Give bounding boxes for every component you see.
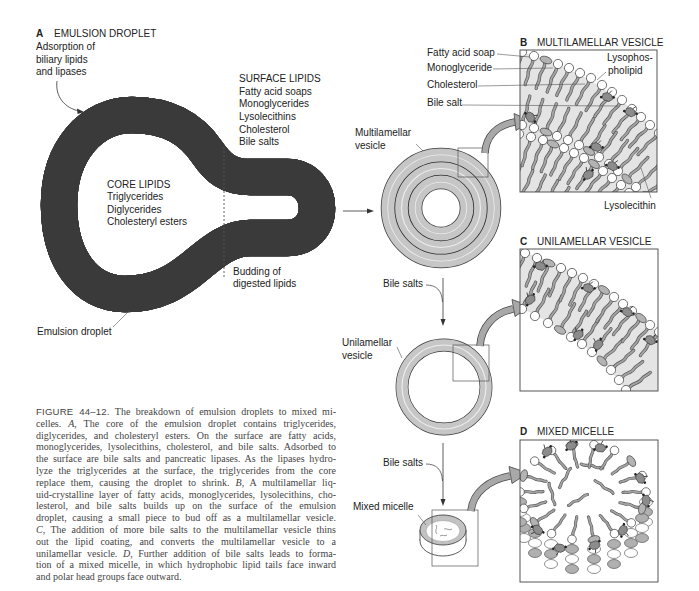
- caption-text: unilamellar vesicle.: [36, 548, 123, 559]
- panel-a-letter: A: [36, 28, 43, 41]
- caption-panel-ref: C: [36, 524, 43, 535]
- caption-text: celles.: [36, 418, 68, 429]
- caption-text: monoglycerides, lysolecithins, cholester…: [36, 441, 336, 452]
- surface-lipid-item: Monoglycerides: [239, 98, 309, 111]
- core-lipids-heading: CORE LIPIDS: [107, 179, 170, 192]
- adsorption-arrow: [57, 81, 84, 114]
- caption-text: , A multilamellar liq-: [242, 477, 336, 488]
- bile-salts-label: Bile salts: [383, 278, 423, 291]
- panel-d-detail: [514, 437, 659, 582]
- budding-note-line: Budding of: [233, 266, 281, 279]
- caption-text: , Further addition of bile salts leads t…: [130, 548, 336, 559]
- panel-b-title: MULTILAMELLAR VESICLE: [537, 37, 664, 50]
- panel-d-letter: D: [520, 426, 527, 439]
- monoglyceride-label: Monoglyceride: [427, 62, 492, 75]
- multilamellar-vesicle-label: vesicle: [355, 140, 386, 153]
- panel-c-letter: C: [520, 236, 527, 249]
- caption-line: lesterol, and bile salts builds up on th…: [36, 500, 336, 512]
- figure-canvas: A EMULSION DROPLET Adsorption of biliary…: [0, 0, 699, 591]
- adsorption-note-line: Adsorption of: [36, 41, 95, 54]
- arrow-to-multilamellar: [343, 209, 374, 214]
- figure-number: FIGURE 44–12.: [36, 406, 110, 417]
- bile-salts-arrow-2: [426, 443, 446, 506]
- multilamellar-leader: [416, 144, 423, 151]
- caption-text: , The core of the emulsion droplet conta…: [74, 418, 336, 429]
- bile-salt-label: Bile salt: [427, 97, 462, 110]
- bile-salts-label: Bile salts: [383, 457, 423, 470]
- adsorption-note-line: biliary lipids: [36, 54, 88, 67]
- bile-salts-arrow-1: [426, 278, 446, 326]
- caption-text: , The addition of more bile salts to the…: [43, 524, 336, 535]
- lysophospholipid-label: pholipid: [608, 65, 642, 78]
- caption-text: diglycerides, and cholesteryl esters. On…: [36, 430, 336, 441]
- unilamellar-leader: [397, 347, 402, 358]
- panel-a-title: EMULSION DROPLET: [54, 28, 156, 41]
- caption-line: out the lipid coating, and converts the …: [36, 536, 336, 548]
- caption-line: unilamellar vesicle. D, Further addition…: [36, 548, 336, 560]
- caption-line: the surface are bile salts and pancreati…: [36, 453, 336, 465]
- panel-d-title: MIXED MICELLE: [537, 426, 614, 439]
- caption-text: droplet, causing a small piece to bud of…: [36, 512, 336, 523]
- caption-text: uid-crystalline layer of fatty acids, mo…: [36, 489, 336, 500]
- surface-lipid-item: Fatty acid soaps: [239, 86, 312, 99]
- lysolecithin-label: Lysolecithin: [604, 200, 656, 213]
- caption-text: the surface are bile salts and pancreati…: [36, 453, 336, 464]
- multilamellar-vesicle-label: Multilamellar: [355, 127, 411, 140]
- figure-caption: FIGURE 44–12. The breakdown of emulsion …: [36, 406, 336, 583]
- panel-c-title: UNILAMELLAR VESICLE: [537, 236, 652, 249]
- caption-text: replace them, causing the droplet to shr…: [36, 477, 236, 488]
- core-lipid-item: Diglycerides: [107, 204, 161, 217]
- panel-b-detail: [492, 46, 670, 219]
- caption-text: The breakdown of emulsion droplets to mi…: [110, 406, 336, 417]
- caption-line: uid-crystalline layer of fatty acids, mo…: [36, 489, 336, 501]
- adsorption-note-line: and lipases: [36, 66, 87, 79]
- caption-text: lesterol, and bile salts builds up on th…: [36, 500, 336, 511]
- caption-line: replace them, causing the droplet to shr…: [36, 477, 336, 489]
- caption-line: celles. A, The core of the emulsion drop…: [36, 418, 336, 430]
- core-lipid-item: Triglycerides: [107, 191, 163, 204]
- unilamellar-vesicle: [402, 345, 486, 429]
- cholesterol-label: Cholesterol: [427, 79, 478, 92]
- zoom-arrow-to-d: [471, 467, 528, 512]
- caption-text: tion of a mixed micelle, in which hydrop…: [36, 559, 336, 570]
- surface-lipid-item: Cholesterol: [239, 124, 290, 137]
- emulsion-droplet-leader: [113, 311, 129, 327]
- caption-text: lyze the triglycerides at the surface, t…: [36, 465, 336, 476]
- surface-lipids-heading: SURFACE LIPIDS: [239, 73, 321, 86]
- panel-b-letter: B: [520, 37, 527, 50]
- mixed-micelle-disk: [420, 515, 466, 556]
- surface-lipid-item: Bile salts: [239, 136, 279, 149]
- caption-line: lyze the triglycerides at the surface, t…: [36, 465, 336, 477]
- caption-line: tion of a mixed micelle, in which hydrop…: [36, 559, 336, 571]
- unilamellar-vesicle-label: vesicle: [342, 350, 373, 363]
- mixed-micelle-label: Mixed micelle: [353, 501, 414, 514]
- multilamellar-vesicle: [402, 169, 481, 248]
- caption-line: and polar head groups face outward.: [36, 571, 336, 583]
- caption-text: out the lipid coating, and converts the …: [36, 536, 336, 547]
- caption-text: and polar head groups face outward.: [36, 571, 182, 582]
- unilamellar-vesicle-label: Unilamellar: [342, 337, 392, 350]
- lysophospholipid-label: Lysophos-: [607, 52, 653, 65]
- emulsion-droplet-label: Emulsion droplet: [37, 326, 111, 339]
- caption-line: monoglycerides, lysolecithins, cholester…: [36, 441, 336, 453]
- caption-line: droplet, causing a small piece to bud of…: [36, 512, 336, 524]
- caption-line: diglycerides, and cholesteryl esters. On…: [36, 430, 336, 442]
- core-lipid-item: Cholesteryl esters: [107, 216, 187, 229]
- panel-c-detail: [510, 247, 666, 400]
- caption-line: FIGURE 44–12. The breakdown of emulsion …: [36, 406, 336, 418]
- surface-lipid-item: Lysolecithins: [239, 111, 296, 124]
- caption-line: C, The addition of more bile salts to th…: [36, 524, 336, 536]
- budding-note-line: digested lipids: [233, 278, 296, 291]
- fatty-acid-soap-label: Fatty acid soap: [427, 47, 495, 60]
